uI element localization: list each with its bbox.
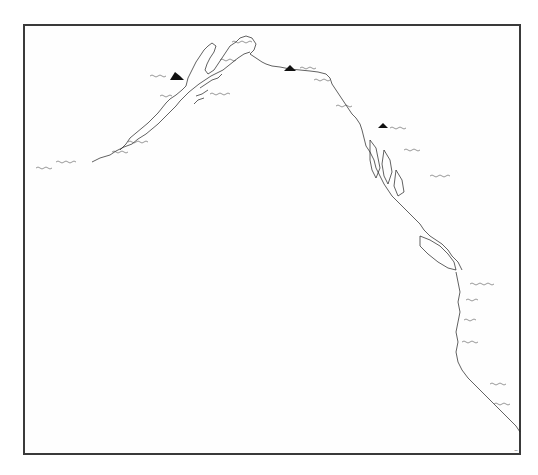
coastline-map (0, 0, 538, 475)
place-label (314, 79, 330, 81)
coastline-aleutian-arc (92, 52, 250, 162)
place-label (150, 75, 166, 77)
place-label (56, 161, 76, 163)
coastline-british-columbia (424, 230, 462, 270)
islands-southeast-alaska (370, 140, 404, 196)
place-label (128, 141, 148, 143)
place-label (336, 105, 352, 107)
coastline-southeast-alaska (356, 118, 424, 230)
place-label (220, 59, 236, 61)
place-label (300, 67, 316, 69)
place-label (494, 403, 510, 405)
place-label (464, 319, 476, 321)
mountain-icon (170, 72, 184, 80)
place-label (490, 383, 506, 385)
coastline-west-coast (456, 272, 520, 432)
signature-mark: ~ (514, 447, 518, 453)
coastline-gulf-north (266, 64, 356, 118)
place-label (470, 283, 494, 285)
place-label (160, 95, 172, 97)
place-label (36, 167, 52, 169)
mountain-icon (378, 123, 388, 128)
coastline-kodiak-side (194, 74, 222, 104)
place-label (390, 127, 406, 129)
place-label (466, 299, 478, 301)
place-label (210, 93, 230, 95)
place-label (462, 341, 478, 343)
place-label (430, 175, 450, 177)
coastline-peninsula-north (120, 86, 186, 150)
place-label (404, 149, 420, 151)
